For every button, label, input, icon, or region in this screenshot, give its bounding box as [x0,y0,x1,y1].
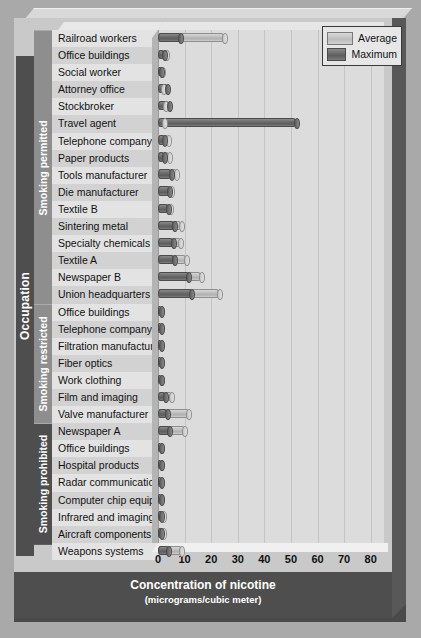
bar-maximum-cap [159,357,165,368]
category-label: Computer chip equip. [52,492,158,509]
x-tick-label: 80 [365,553,377,565]
category-label: Weapons systems [52,543,158,560]
bar-row [158,64,384,81]
bar-row [158,458,384,475]
bar-maximum-cap [178,33,184,44]
bar-row [158,355,384,372]
bar-row [158,406,384,423]
category-label: Travel agent [52,115,158,132]
category-label: Textile B [52,201,158,218]
bar-maximum-cap [163,392,169,403]
category-label: Stockbroker [52,98,158,115]
category-label: Work clothing [52,372,158,389]
category-label: Union headquarters [52,286,158,303]
bar-average-cap [222,33,228,44]
x-tick-label: 50 [285,553,297,565]
legend-item-average: Average [327,30,397,46]
category-label: Specialty chemicals [52,235,158,252]
category-label: Aircraft components [52,526,158,543]
group-band-label: Smoking permitted [37,120,49,215]
bar-row [158,509,384,526]
bar-maximum-cap [166,204,172,215]
bar-maximum-cap [186,272,192,283]
category-label: Die manufacturer [52,184,158,201]
bar-row [158,133,384,150]
bar-maximum-cap [159,340,165,351]
category-label: Social worker [52,64,158,81]
y-axis-title: Occupation [18,272,32,340]
category-label: Office buildings [52,440,158,457]
bar-row [158,150,384,167]
bar-row [158,287,384,304]
bar-maximum-cap [169,169,175,180]
category-label: Office buildings [52,47,158,64]
bar-row [158,235,384,252]
group-band: Smoking prohibited [34,423,52,545]
x-tick-label: 20 [205,553,217,565]
bar-maximum-cap [162,152,168,163]
category-label: Newspaper B [52,269,158,286]
category-label: Tools manufacturer [52,167,158,184]
bar-average-cap [178,238,184,249]
category-label: Textile A [52,252,158,269]
bar-row [158,81,384,98]
category-label: Hospital products [52,457,158,474]
category-label: Telephone company [52,133,158,150]
x-axis-title-band: Concentration of nicotine (micrograms/cu… [14,572,392,618]
x-tick-label: 60 [311,553,323,565]
x-axis-base [152,543,388,553]
bar-average-cap [186,409,192,420]
legend-label-maximum: Maximum [351,48,397,60]
bar-average-cap [169,392,175,403]
x-tick-label: 70 [338,553,350,565]
bar-maximum [158,289,192,298]
category-label: Attorney office [52,81,158,98]
legend: Average Maximum [322,26,402,66]
chart-figure: Occupation Smoking permittedSmoking rest… [0,0,421,638]
bar-average-cap [184,255,190,266]
bar-maximum-cap [159,443,165,454]
bar-average-cap [162,118,168,129]
bar-maximum-cap [172,221,178,232]
bar-maximum-cap [165,409,171,420]
category-label: Telephone company [52,321,158,338]
bar-average-cap [217,289,223,300]
bar-maximum-cap [167,101,173,112]
bar-maximum-cap [172,255,178,266]
category-label: Sintering metal [52,218,158,235]
category-label: Radar communications [52,474,158,491]
group-band: Smoking restricted [34,304,52,426]
category-label: Fiber optics [52,355,158,372]
category-label: Office buildings [52,304,158,321]
x-axis-ticks: 01020304050607080 [158,553,384,569]
legend-swatch-average-icon [327,32,353,45]
bar-maximum-cap [159,494,165,505]
group-band-label: Smoking restricted [37,317,49,412]
bar-maximum-cap [294,118,300,129]
bar-maximum-cap [159,460,165,471]
bar-maximum [158,272,189,281]
y-axis-title-band: Occupation [16,56,34,556]
category-label: Filtration manufacturer [52,338,158,355]
bar-row [158,304,384,321]
category-label: Film and imaging [52,389,158,406]
category-label: Paper products [52,150,158,167]
bar-row [158,321,384,338]
bar-maximum-cap [189,289,195,300]
bar-row [158,269,384,286]
legend-label-average: Average [358,32,397,44]
bar-row [158,252,384,269]
bar-row [158,389,384,406]
bar-row [158,98,384,115]
bar-average-cap [199,272,205,283]
bar-row [158,526,384,543]
category-label: Railroad workers [52,30,158,47]
bar-maximum [158,118,296,127]
bar-maximum-cap [171,238,177,249]
x-tick-label: 30 [232,553,244,565]
bar-maximum-cap [165,84,171,95]
group-band-label: Smoking prohibited [37,435,49,534]
bar-row [158,201,384,218]
category-label: Infrared and imaging [52,509,158,526]
bar-row [158,218,384,235]
